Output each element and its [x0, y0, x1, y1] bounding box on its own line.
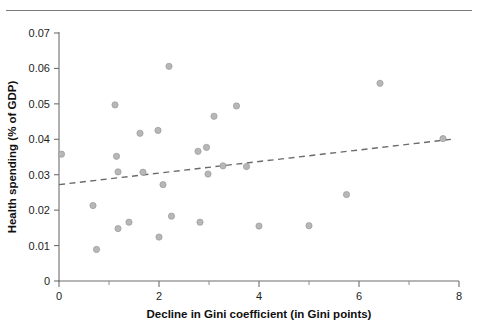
data-point	[211, 113, 217, 119]
data-point	[233, 103, 239, 109]
data-point	[156, 234, 162, 240]
x-tick-label: 2	[156, 290, 162, 302]
data-point	[93, 246, 99, 252]
data-point	[306, 223, 312, 229]
y-tick-label: 0.05	[29, 98, 50, 110]
data-point	[440, 135, 446, 141]
data-points-group	[58, 63, 446, 252]
data-point	[168, 213, 174, 219]
data-point	[160, 182, 166, 188]
x-tick-label: 8	[456, 290, 462, 302]
data-point	[58, 151, 64, 157]
y-tick-label: 0.04	[29, 133, 50, 145]
y-tick-label: 0.03	[29, 169, 50, 181]
data-point	[195, 148, 201, 154]
data-point	[155, 127, 161, 133]
y-axis-title: Health spending (% of GDP)	[6, 80, 18, 233]
scatter-plot: 00.010.020.030.040.050.060.0702468Declin…	[0, 0, 478, 324]
figure-container: 00.010.020.030.040.050.060.0702468Declin…	[0, 0, 478, 324]
y-tick-label: 0	[44, 275, 50, 287]
data-point	[203, 144, 209, 150]
y-tick-label: 0.01	[29, 240, 50, 252]
data-point	[113, 153, 119, 159]
x-axis-title: Decline in Gini coefficient (in Gini poi…	[147, 308, 372, 320]
data-point	[126, 219, 132, 225]
data-point	[115, 225, 121, 231]
x-tick-label: 0	[56, 290, 62, 302]
x-tick-label: 4	[256, 290, 262, 302]
data-point	[112, 102, 118, 108]
data-point	[256, 223, 262, 229]
data-point	[166, 63, 172, 69]
data-point	[197, 219, 203, 225]
data-point	[377, 80, 383, 86]
y-tick-label: 0.02	[29, 204, 50, 216]
x-tick-label: 6	[356, 290, 362, 302]
trendline	[59, 139, 452, 184]
data-point	[115, 169, 121, 175]
data-point	[205, 171, 211, 177]
data-point	[90, 202, 96, 208]
data-point	[243, 163, 249, 169]
data-point	[140, 169, 146, 175]
y-tick-label: 0.07	[29, 27, 50, 39]
y-tick-label: 0.06	[29, 62, 50, 74]
data-point	[220, 163, 226, 169]
data-point	[343, 191, 349, 197]
data-point	[137, 130, 143, 136]
